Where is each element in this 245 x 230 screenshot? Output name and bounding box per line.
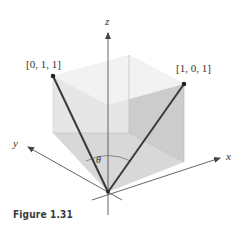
cube-vectors-diagram: z y x θ [0, 1, 1] [1, 0, 1]: [0, 0, 245, 230]
vector-label-0-1-1: [0, 1, 1]: [26, 58, 61, 70]
z-axis-label: z: [104, 15, 110, 27]
vector-tip-point: [51, 74, 56, 79]
figure-caption: Figure 1.31: [13, 208, 73, 221]
theta-label: θ: [96, 154, 101, 165]
origin-point: [106, 190, 110, 194]
y-axis-label: y: [12, 137, 18, 149]
vector-label-1-0-1: [1, 0, 1]: [176, 62, 211, 74]
x-axis-label: x: [225, 150, 231, 162]
unit-cube: [53, 55, 184, 192]
vector-tip-point: [182, 82, 187, 87]
